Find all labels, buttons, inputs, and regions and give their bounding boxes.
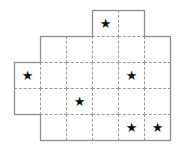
grid-cell: ★ (92, 10, 119, 37)
grid-cell (118, 88, 145, 115)
grid-cell (118, 10, 145, 37)
grid-cell (92, 62, 119, 89)
grid-cell: ★ (118, 62, 145, 89)
grid-cell: ★ (66, 88, 93, 115)
grid-cell (92, 36, 119, 63)
grid-cell (144, 62, 171, 89)
grid-cell (66, 114, 93, 141)
star-icon: ★ (126, 121, 138, 134)
grid-cell (40, 36, 67, 63)
grid-cell (66, 62, 93, 89)
star-icon: ★ (22, 69, 34, 82)
grid-cell: ★ (144, 114, 171, 141)
grid-cell (14, 88, 41, 115)
star-icon: ★ (74, 95, 86, 108)
grid-cell (40, 62, 67, 89)
grid-cell (118, 36, 145, 63)
star-icon: ★ (126, 69, 138, 82)
grid-cell (144, 36, 171, 63)
grid-cell (92, 114, 119, 141)
grid-cell (66, 36, 93, 63)
grid-cell (40, 88, 67, 115)
grid-cell (144, 88, 171, 115)
star-icon: ★ (152, 121, 164, 134)
star-grid-diagram: ★★★★★★ (0, 0, 185, 149)
grid-cell: ★ (118, 114, 145, 141)
star-icon: ★ (100, 17, 112, 30)
grid-cell: ★ (14, 62, 41, 89)
grid-cell (40, 114, 67, 141)
grid-cell (92, 88, 119, 115)
